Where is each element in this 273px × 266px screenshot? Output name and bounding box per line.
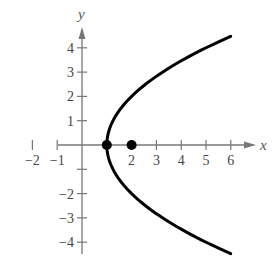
vertex-point: [102, 140, 112, 150]
y-tick-label: −2: [59, 187, 74, 202]
x-tick-label: −1: [50, 153, 65, 168]
x-tick-label: 3: [153, 153, 160, 168]
x-tick-label: 6: [227, 153, 234, 168]
y-tick-label: −4: [59, 235, 74, 250]
x-tick-label: 2: [128, 153, 135, 168]
x-axis-arrow-icon: [244, 142, 256, 149]
parabola-plot: −2−123456−4−3−21234 x y: [0, 0, 273, 266]
y-axis-label: y: [76, 6, 85, 22]
y-tick-label: 1: [67, 114, 74, 129]
y-tick-label: −3: [59, 211, 74, 226]
y-tick-label: 4: [67, 41, 74, 56]
x-tick-label: 5: [203, 153, 210, 168]
x-tick-label: 4: [178, 153, 185, 168]
x-tick-label: −2: [25, 153, 40, 168]
y-tick-label: 2: [67, 89, 74, 104]
x-axis-label: x: [259, 137, 267, 153]
y-axis-arrow-icon: [79, 27, 86, 39]
focus-point: [127, 140, 137, 150]
axes: [58, 27, 256, 254]
y-tick-label: 3: [67, 65, 74, 80]
